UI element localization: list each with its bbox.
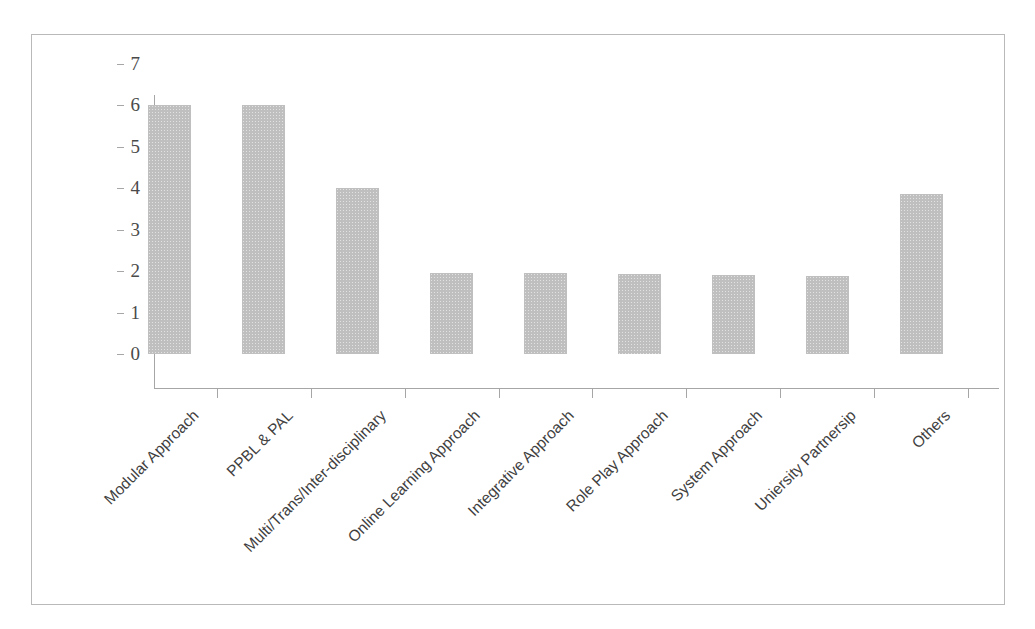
x-tick-mark bbox=[499, 389, 500, 398]
x-tick-mark bbox=[686, 389, 687, 398]
x-tick-mark bbox=[311, 389, 312, 398]
x-axis-tick-label: Modular Approach bbox=[101, 407, 201, 507]
x-axis-tick-label: Role Play Approach bbox=[564, 407, 671, 514]
bar bbox=[242, 105, 285, 354]
x-tick-mark bbox=[780, 389, 781, 398]
bar bbox=[430, 273, 473, 354]
x-tick-mark bbox=[217, 389, 218, 398]
x-axis-tick-label: System Approach bbox=[668, 407, 765, 504]
bar bbox=[618, 274, 661, 354]
y-tick-label: 1 bbox=[100, 303, 140, 322]
y-tick-label: 5 bbox=[100, 137, 140, 156]
x-axis-tick-label: PPBL & PAL bbox=[223, 407, 295, 479]
x-axis-tick-label: Others bbox=[909, 407, 953, 451]
x-axis-tick-label: Integrative Approach bbox=[465, 407, 577, 519]
y-tick-label: 2 bbox=[100, 261, 140, 280]
bar bbox=[524, 273, 567, 354]
bar bbox=[712, 275, 755, 354]
y-tick-label: 4 bbox=[100, 178, 140, 197]
y-tick-label: 6 bbox=[100, 95, 140, 114]
chart-frame: 01234567 Modular ApproachPPBL & PALMulti… bbox=[31, 34, 1005, 605]
bar bbox=[336, 188, 379, 354]
bar bbox=[148, 105, 191, 354]
y-tick-label: 3 bbox=[100, 220, 140, 239]
y-tick-label: 0 bbox=[100, 344, 140, 363]
x-tick-mark bbox=[968, 389, 969, 398]
x-tick-mark bbox=[592, 389, 593, 398]
bar bbox=[806, 276, 849, 354]
x-axis-line bbox=[154, 388, 999, 389]
x-tick-mark bbox=[405, 389, 406, 398]
x-axis-tick-label: Uniersity Partnersip bbox=[752, 407, 859, 514]
x-tick-mark bbox=[874, 389, 875, 398]
y-tick-label: 7 bbox=[100, 54, 140, 73]
bar-chart: 01234567 Modular ApproachPPBL & PALMulti… bbox=[0, 0, 1035, 629]
bar bbox=[900, 194, 943, 354]
